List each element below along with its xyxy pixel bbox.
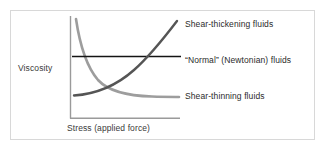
x-axis-label: Stress (applied force): [67, 123, 150, 133]
series-label-newtonian: “Normal” (Newtonian) fluids: [185, 55, 291, 65]
chart-screenshot: Viscosity Stress (applied force) Shear-t…: [0, 0, 327, 150]
y-axis-label: Viscosity: [18, 63, 52, 73]
series-line-shear-thickening: [74, 21, 177, 96]
series-label-shear-thinning: Shear-thinning fluids: [185, 91, 265, 101]
plot-canvas: [0, 0, 327, 150]
series-label-shear-thickening: Shear-thickening fluids: [185, 19, 273, 29]
series-line-shear-thinning: [76, 19, 179, 97]
